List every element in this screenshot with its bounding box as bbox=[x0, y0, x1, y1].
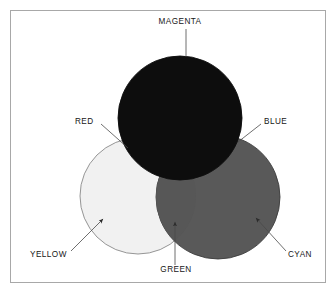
label-magenta: MAGENTA bbox=[158, 17, 201, 26]
label-blue: BLUE bbox=[264, 117, 287, 126]
label-green: GREEN bbox=[160, 265, 191, 274]
circle-magenta bbox=[118, 56, 242, 180]
color-venn-diagram: MAGENTA RED BLUE YELLOW GREEN CYAN bbox=[0, 0, 336, 292]
label-cyan: CYAN bbox=[288, 250, 312, 259]
label-red: RED bbox=[75, 117, 94, 126]
label-yellow: YELLOW bbox=[30, 250, 67, 259]
figure-root: MAGENTA RED BLUE YELLOW GREEN CYAN bbox=[0, 0, 336, 292]
